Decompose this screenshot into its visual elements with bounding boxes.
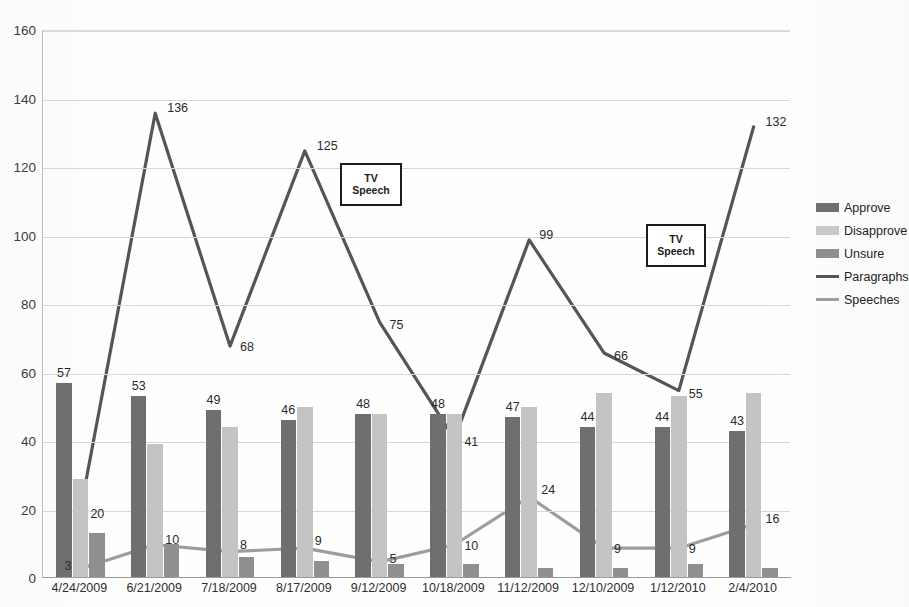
gridline <box>43 31 790 32</box>
speeches-value-label: 8 <box>240 538 247 552</box>
bar-value-label: 49 <box>207 393 221 407</box>
bar-unsure <box>463 564 479 578</box>
paragraphs-value-label: 132 <box>766 115 787 129</box>
paragraphs-value-label: 136 <box>167 101 188 115</box>
bar-value-label: 47 <box>506 400 520 414</box>
y-axis-tick-label: 140 <box>0 91 36 106</box>
clipped-chart-title <box>44 0 744 3</box>
gridline <box>43 374 790 375</box>
paragraphs-line <box>80 113 753 510</box>
bar-value-label: 53 <box>132 379 146 393</box>
paragraphs-value-label: 20 <box>90 507 104 521</box>
bar-approve <box>655 427 671 578</box>
bar-approve <box>430 414 446 578</box>
bar-unsure <box>89 533 105 578</box>
bar-disapprove <box>521 407 537 578</box>
x-axis-tick-label: 1/12/2010 <box>650 581 706 595</box>
line-swatch-light-icon <box>816 298 839 301</box>
bar-disapprove <box>222 427 238 578</box>
tv-speech-annotation: TVSpeech <box>646 224 706 267</box>
bar-disapprove <box>147 444 163 578</box>
x-axis-tick-label: 10/18/2009 <box>422 581 485 595</box>
legend-item-label: Unsure <box>844 247 884 261</box>
bar-value-label: 48 <box>356 397 370 411</box>
plot-area: 5753494648484744444320136681257541996655… <box>42 30 790 578</box>
bar-value-label: 57 <box>57 366 71 380</box>
bar-disapprove <box>746 393 762 578</box>
speeches-value-label: 5 <box>390 552 397 566</box>
gridline <box>43 305 790 306</box>
chart-canvas: 5753494648484744444320136681257541996655… <box>0 0 909 607</box>
paragraphs-value-label: 55 <box>689 387 703 401</box>
speeches-line <box>80 497 753 569</box>
speeches-value-label: 10 <box>165 533 179 547</box>
legend-item-unsure[interactable]: Unsure <box>816 242 909 265</box>
paragraphs-value-label: 41 <box>464 435 478 449</box>
bar-value-label: 43 <box>730 414 744 428</box>
legend-item-approve[interactable]: Approve <box>816 196 909 219</box>
tv-speech-annotation: TVSpeech <box>340 163 402 206</box>
bar-unsure <box>688 564 704 578</box>
gridline <box>43 168 790 169</box>
legend-item-label: Speeches <box>844 293 900 307</box>
bar-disapprove <box>447 414 463 578</box>
x-axis-tick-label: 7/18/2009 <box>201 581 257 595</box>
paragraphs-value-label: 125 <box>317 139 338 153</box>
bar-unsure <box>388 564 404 578</box>
bar-unsure <box>164 544 180 578</box>
x-axis-rule <box>42 577 791 578</box>
tv-speech-annotation-line2: Speech <box>657 246 694 258</box>
legend-item-label: Disapprove <box>844 224 907 238</box>
legend-item-speeches[interactable]: Speeches <box>816 288 909 311</box>
speeches-value-label: 9 <box>614 542 621 556</box>
speeches-value-label: 10 <box>464 539 478 553</box>
bar-value-label: 44 <box>581 410 595 424</box>
bar-value-label: 44 <box>655 410 669 424</box>
x-axis-tick-label: 11/12/2009 <box>497 581 559 595</box>
x-axis-tick-label: 9/12/2009 <box>351 581 407 595</box>
bar-approve <box>131 396 147 578</box>
x-axis-tick-label: 4/24/2009 <box>52 581 108 595</box>
paragraphs-value-label: 75 <box>390 318 404 332</box>
legend-item-label: Paragraphs <box>844 270 909 284</box>
speeches-value-label: 24 <box>541 483 555 497</box>
paragraphs-value-label: 99 <box>539 228 553 242</box>
bar-disapprove <box>372 414 388 578</box>
x-axis-tick-label: 8/17/2009 <box>276 581 332 595</box>
x-axis-tick-label: 12/10/2009 <box>572 581 635 595</box>
y-axis-tick-label: 60 <box>0 365 36 380</box>
y-axis-tick-label: 0 <box>0 571 36 586</box>
bar-approve <box>206 410 222 578</box>
bar-disapprove <box>671 396 687 578</box>
bar-approve <box>580 427 596 578</box>
y-axis-tick-label: 160 <box>0 23 36 38</box>
chart-legend: ApproveDisapproveUnsureParagraphsSpeeche… <box>816 196 909 311</box>
bar-disapprove <box>297 407 313 578</box>
bar-approve <box>505 417 521 578</box>
bar-approve <box>355 414 371 578</box>
legend-item-paragraphs[interactable]: Paragraphs <box>816 265 909 288</box>
legend-item-label: Approve <box>844 201 891 215</box>
paragraphs-value-label: 68 <box>240 340 254 354</box>
line-swatch-dark-icon <box>816 275 839 278</box>
bar-swatch-dark-icon <box>816 203 839 212</box>
speeches-value-label: 9 <box>315 534 322 548</box>
bar-disapprove <box>73 479 89 578</box>
bar-swatch-medium-icon <box>816 249 839 258</box>
gridline <box>43 100 790 101</box>
speeches-value-label: 9 <box>689 542 696 556</box>
tv-speech-annotation-line1: TV <box>364 173 377 185</box>
y-axis-tick-label: 20 <box>0 502 36 517</box>
bar-value-label: 48 <box>431 397 445 411</box>
speeches-value-label: 16 <box>766 512 780 526</box>
bar-swatch-light-icon <box>816 226 839 235</box>
bar-disapprove <box>596 393 612 578</box>
legend-item-disapprove[interactable]: Disapprove <box>816 219 909 242</box>
bar-unsure <box>314 561 330 578</box>
bar-unsure <box>239 557 255 578</box>
bar-approve <box>281 420 297 578</box>
tv-speech-annotation-line1: TV <box>669 234 682 246</box>
x-axis-tick-label: 2/4/2010 <box>728 581 777 595</box>
y-axis-tick-label: 40 <box>0 434 36 449</box>
speeches-value-label: 3 <box>64 559 71 573</box>
